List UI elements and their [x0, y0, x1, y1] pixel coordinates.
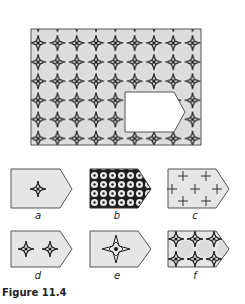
- option-b-piece[interactable]: [90, 169, 152, 209]
- option-b-label: b: [107, 210, 127, 221]
- option-e-piece[interactable]: [90, 231, 151, 267]
- option-a-piece[interactable]: [11, 169, 72, 208]
- figure-canvas: [0, 0, 245, 304]
- main-pattern-panel: [31, 29, 201, 145]
- option-f-piece[interactable]: [160, 223, 233, 275]
- option-d-label: d: [28, 270, 48, 281]
- option-f-label: f: [185, 270, 205, 281]
- figure-caption: Figure 11.4: [2, 287, 66, 298]
- option-c-label: c: [185, 210, 205, 221]
- option-d-piece[interactable]: [11, 231, 72, 267]
- option-a-label: a: [28, 210, 48, 221]
- missing-piece-cutout: [125, 92, 185, 132]
- option-e-label: e: [107, 270, 127, 281]
- option-c-piece[interactable]: [167, 169, 229, 208]
